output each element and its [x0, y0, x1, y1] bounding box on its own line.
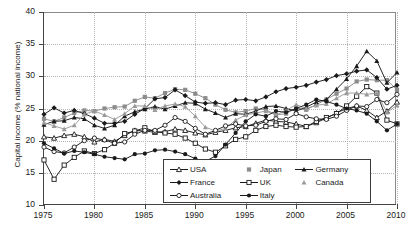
legend-label-italy[interactable]: Italy [260, 189, 294, 202]
y-axis-tick-label: 15 [26, 167, 35, 177]
legend-marker-france [168, 176, 190, 189]
open-circle-icon [169, 190, 189, 201]
legend-row: USAJapanGermany [168, 163, 366, 176]
y-axis-tick-label: 40 [26, 6, 35, 16]
legend-label-japan[interactable]: Japan [260, 163, 294, 176]
open-triangle-icon [169, 164, 189, 175]
legend-label-germany[interactable]: Germany [315, 163, 366, 176]
filled-triangle-icon [294, 164, 314, 175]
series-japan [42, 77, 399, 123]
legend-marker-usa [168, 163, 190, 176]
series-australia [42, 92, 399, 155]
legend-marker-italy [238, 189, 260, 202]
x-axis-tick-label: 1980 [73, 210, 113, 220]
legend-row: FranceUKCanada [168, 176, 366, 189]
legend-table: USAJapanGermanyFranceUKCanadaAustraliaIt… [168, 163, 366, 202]
x-axis-tick-label: 2010 [376, 210, 410, 220]
filled-triangle-gray-icon [294, 177, 314, 188]
y-axis-tick-label: 20 [26, 135, 35, 145]
filled-circle-icon [239, 190, 259, 201]
legend-label-france[interactable]: France [190, 176, 238, 189]
legend-marker-japan [238, 163, 260, 176]
x-axis-tick-label: 1975 [23, 210, 63, 220]
legend-label-uk[interactable]: UK [260, 176, 294, 189]
y-axis-tick-label: 30 [26, 70, 35, 80]
open-square-icon [239, 177, 259, 188]
series-france [41, 67, 399, 126]
x-axis-tick-label: 1985 [124, 210, 164, 220]
y-axis-tick-label: 10 [26, 199, 35, 209]
gridline-vertical [397, 12, 398, 204]
y-axis-tick-label: 25 [26, 103, 35, 113]
legend-marker-australia [168, 189, 190, 202]
x-axis-tick-label: 2000 [275, 210, 315, 220]
legend-label-canada[interactable]: Canada [315, 176, 366, 189]
legend-label-usa[interactable]: USA [190, 163, 238, 176]
legend-marker-canada [293, 176, 315, 189]
x-axis-tick-label: 2005 [326, 210, 366, 220]
legend-marker-uk [238, 176, 260, 189]
legend-label-australia[interactable]: Australia [190, 189, 238, 202]
legend-marker-germany [293, 163, 315, 176]
x-axis-tick [397, 204, 398, 209]
filled-square-icon [239, 164, 259, 175]
y-axis-tick-label: 35 [26, 38, 35, 48]
legend-spacer [293, 189, 366, 202]
chart-legend: USAJapanGermanyFranceUKCanadaAustraliaIt… [163, 159, 371, 203]
x-axis-tick-label: 1995 [225, 210, 265, 220]
x-axis-tick-label: 1990 [174, 210, 214, 220]
y-axis-title: Capital income (% national income) [13, 25, 22, 185]
filled-diamond-icon [169, 177, 189, 188]
legend-row: AustraliaItaly [168, 189, 366, 202]
